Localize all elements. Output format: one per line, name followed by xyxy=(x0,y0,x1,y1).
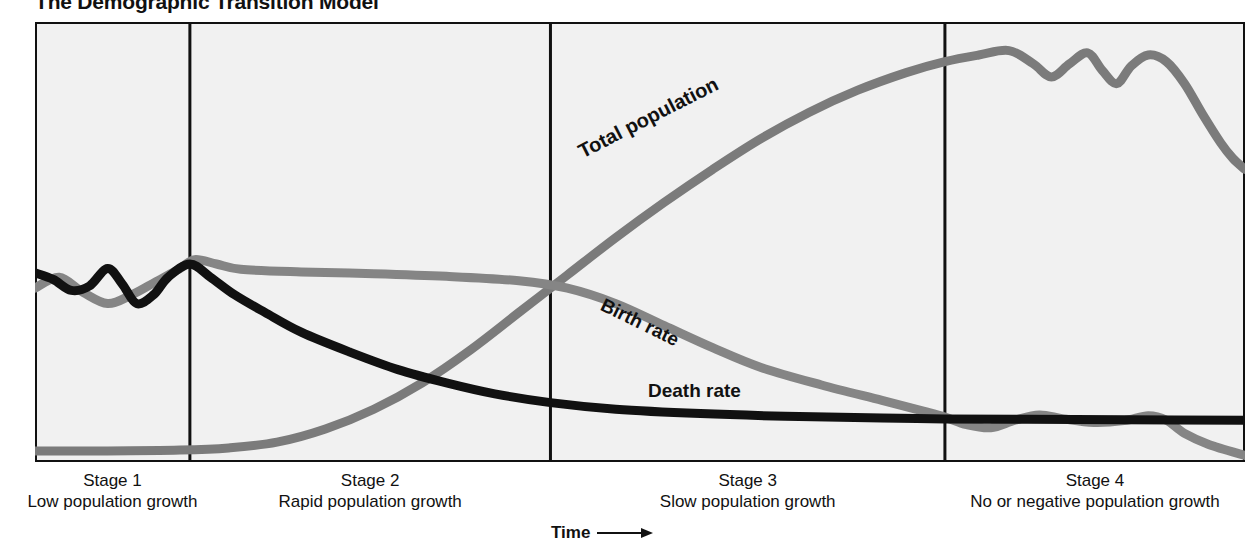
stage-name: Stage 3 xyxy=(588,470,908,491)
right-arrow-icon xyxy=(597,526,653,540)
stage-caption-2: Stage 2 Rapid population growth xyxy=(210,470,530,513)
birth-rate-curve xyxy=(35,260,1245,456)
stage-caption-4: Stage 4 No or negative population growth xyxy=(935,470,1255,513)
time-axis-text: Time xyxy=(551,523,590,543)
stage-caption-3: Stage 3 Slow population growth xyxy=(588,470,908,513)
chart-page: The Demographic Transition Model Total p… xyxy=(0,0,1258,550)
stage-divider-lines xyxy=(190,22,945,462)
stage-name: Stage 4 xyxy=(935,470,1255,491)
stage-name: Stage 2 xyxy=(210,470,530,491)
stage-description: Slow population growth xyxy=(588,491,908,512)
death-rate-label: Death rate xyxy=(648,380,741,402)
page-title: The Demographic Transition Model xyxy=(35,0,379,14)
time-axis-label: Time xyxy=(551,523,653,543)
stage-description: Rapid population growth xyxy=(210,491,530,512)
stage-description: No or negative population growth xyxy=(935,491,1255,512)
death-rate-curve xyxy=(35,264,1245,420)
chart-canvas xyxy=(35,22,1245,462)
